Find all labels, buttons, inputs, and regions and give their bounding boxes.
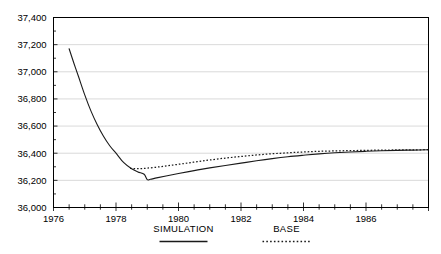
data-series-group <box>69 49 428 180</box>
x-axis-tick-label: 1978 <box>105 213 126 224</box>
legend-label-simulation: SIMULATION <box>153 223 213 234</box>
series-line-simulation <box>69 49 428 180</box>
series-line-base <box>130 150 428 169</box>
x-axis-tick-labels: 197619781980198219841986 <box>43 213 377 224</box>
x-axis-tick-label: 1986 <box>355 213 376 224</box>
chart-legend: SIMULATIONBASE <box>153 223 310 242</box>
x-axis-tick-marks <box>54 203 429 212</box>
x-axis-tick-label: 1976 <box>43 213 64 224</box>
gridlines-group <box>54 18 429 208</box>
y-axis-tick-labels: 36,00036,20036,40036,60036,80037,00037,2… <box>17 12 46 213</box>
x-axis-tick-label: 1984 <box>293 213 314 224</box>
y-axis-tick-label: 36,600 <box>17 120 46 131</box>
line-chart: 36,00036,20036,40036,60036,80037,00037,2… <box>0 0 441 254</box>
y-axis-tick-label: 36,200 <box>17 175 46 186</box>
y-axis-tick-label: 36,400 <box>17 148 46 159</box>
y-axis-tick-label: 37,400 <box>17 12 46 23</box>
plot-area-border <box>54 18 429 208</box>
y-axis-tick-label: 36,000 <box>17 202 46 213</box>
legend-label-base: BASE <box>273 223 300 234</box>
y-axis-tick-label: 36,800 <box>17 93 46 104</box>
chart-container: 36,00036,20036,40036,60036,80037,00037,2… <box>0 0 441 254</box>
y-axis-tick-label: 37,200 <box>17 39 46 50</box>
x-axis-tick-label: 1980 <box>168 213 189 224</box>
x-axis-tick-label: 1982 <box>230 213 251 224</box>
y-axis-tick-label: 37,000 <box>17 66 46 77</box>
